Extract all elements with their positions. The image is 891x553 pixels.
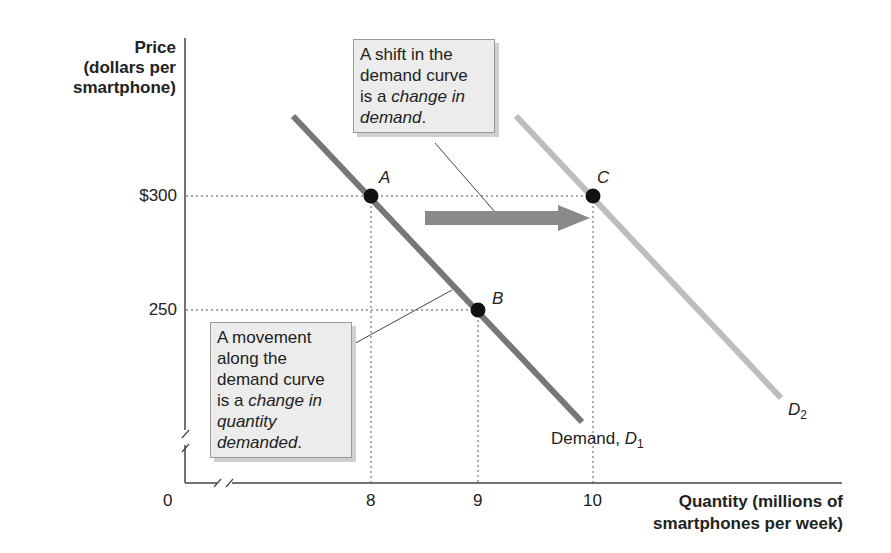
demand-curve-d2 xyxy=(516,116,781,398)
x-tick-10: 10 xyxy=(583,491,602,511)
y-tick-300: $300 xyxy=(117,186,177,206)
point-b-label: B xyxy=(492,289,503,309)
d2-label: D2 xyxy=(788,400,807,422)
point-c-label: C xyxy=(597,168,609,188)
shift-annotation: A shift in the demand curve is a change … xyxy=(353,39,495,133)
point-a-label: A xyxy=(379,168,390,188)
x-tick-9: 9 xyxy=(473,491,482,511)
d1-label: Demand, D1 xyxy=(551,429,644,451)
x-tick-8: 8 xyxy=(366,491,375,511)
movement-annotation: A movement along the demand curve is a c… xyxy=(210,322,352,458)
y-tick-250: 250 xyxy=(117,300,177,320)
x-tick-0: 0 xyxy=(163,491,172,511)
y-axis-label: Price (dollars per smartphone) xyxy=(73,38,176,98)
x-axis-label: Quantity (millions of smartphones per we… xyxy=(653,491,843,535)
